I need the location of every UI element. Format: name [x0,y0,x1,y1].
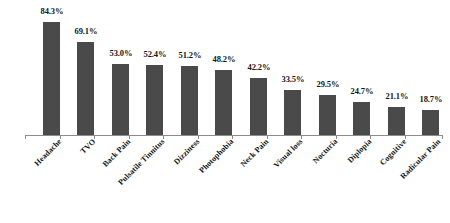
x-axis-label-text: Back Pain [101,137,133,169]
plot-area: 84.3% 69.1% 53.0% 52.4% 51.2% 48.2% [0,0,450,136]
bar-rect[interactable] [43,22,60,135]
bar-chart: 84.3% 69.1% 53.0% 52.4% 51.2% 48.2% [0,0,450,223]
bar-group: 18.7% [414,0,448,136]
x-axis-label-text: Diplopia [346,137,374,165]
bar-group: 84.3% [35,0,69,136]
bar-group: 21.1% [380,0,414,136]
x-axis-label-text: Cognitive [378,137,408,167]
x-axis-label-text: Headache [33,137,64,168]
x-axis-label-text: Neck Pain [239,137,271,169]
x-axis-label-text: Nocturia [311,137,339,165]
bar-value-label: 18.7% [406,94,450,104]
x-axis-label-text: Photophobia [197,137,235,175]
bar-rect[interactable] [112,64,129,135]
bar-group: 69.1% [69,0,103,136]
x-axis-label-text: Dizziness [172,137,201,166]
x-axis-label-text: TVO [79,137,98,156]
x-axis-label-text: Visual loss [272,137,305,170]
x-axis-category-labels: Headache TVO Back Pain Pulsatile Tinnitu… [0,137,450,223]
bar-group: 24.7% [345,0,379,136]
bar-group: 53.0% [104,0,138,136]
